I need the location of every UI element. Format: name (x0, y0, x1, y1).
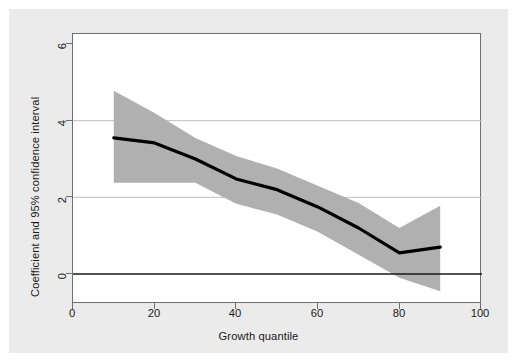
x-tick-label-0: 0 (52, 307, 92, 319)
x-axis-label: Growth quantile (0, 330, 517, 342)
y-tick-label-6: 6 (56, 43, 68, 69)
y-tick-label-2: 2 (56, 197, 68, 223)
chart-svg (73, 34, 482, 304)
figure-canvas: Coefficient and 95% confidence interval … (0, 0, 517, 362)
x-tick-label-80: 80 (379, 307, 419, 319)
x-tick-label-20: 20 (134, 307, 174, 319)
y-axis-label-container: Coefficient and 95% confidence interval (12, 33, 34, 303)
x-tick-label-100: 100 (460, 307, 500, 319)
x-tick-label-60: 60 (297, 307, 337, 319)
x-tick-label-40: 40 (215, 307, 255, 319)
plot-area (72, 33, 481, 303)
y-axis-label: Coefficient and 95% confidence interval (29, 97, 41, 297)
y-tick-label-4: 4 (56, 120, 68, 146)
y-tick-label-0: 0 (56, 273, 68, 299)
